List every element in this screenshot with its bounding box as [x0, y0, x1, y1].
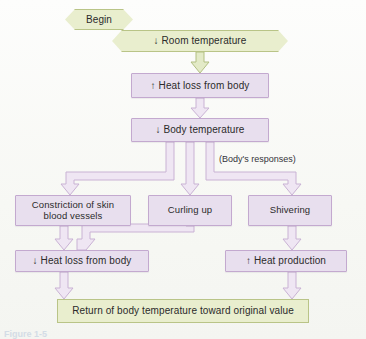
- arrow-heat-production-to-return: [283, 272, 301, 299]
- figure-caption: Figure 1-5: [4, 329, 47, 339]
- node-heat-loss-decrease: ↓ Heat loss from body: [15, 250, 149, 272]
- arrow-body-temp-to-shivering: [206, 142, 301, 195]
- node-constriction: Constriction of skin blood vessels: [15, 195, 131, 226]
- node-heat-loss-decrease-label: ↓ Heat loss from body: [33, 255, 132, 266]
- node-heat-production-label: ↑ Heat production: [246, 255, 326, 266]
- node-shivering-label: Shivering: [270, 205, 311, 216]
- node-return-value-label: Return of body temperature toward origin…: [72, 305, 294, 316]
- arrow-heat-loss-to-body-temp: [191, 98, 209, 118]
- node-return-value: Return of body temperature toward origin…: [57, 299, 309, 323]
- node-constriction-line2: blood vessels: [44, 211, 103, 222]
- label-body-responses-text: (Body's responses): [219, 154, 296, 164]
- node-shivering: Shivering: [248, 195, 332, 226]
- node-curling-up-label: Curling up: [168, 205, 212, 216]
- arrow-shivering-to-heat-production: [283, 226, 301, 250]
- arrow-curling-up-to-heat-loss-decrease: [77, 224, 194, 250]
- figure-caption-text: Figure 1-5: [4, 329, 47, 339]
- arrow-body-temp-to-constriction: [61, 142, 174, 195]
- node-heat-production: ↑ Heat production: [225, 250, 347, 272]
- node-room-temperature: ↓ Room temperature: [112, 30, 288, 52]
- arrow-room-temp-to-heat-loss: [191, 52, 209, 73]
- arrow-body-temp-to-curling-up: [181, 142, 199, 195]
- node-constriction-line1: Constriction of skin: [32, 200, 114, 211]
- node-body-temperature-label: ↓ Body temperature: [155, 124, 244, 135]
- node-heat-loss-increase: ↑ Heat loss from body: [131, 73, 269, 98]
- figure-canvas: .ar { fill:#efe6f3; stroke:#c9b2d4; stro…: [0, 0, 366, 339]
- node-heat-loss-increase-label: ↑ Heat loss from body: [151, 80, 250, 91]
- node-begin-label: Begin: [86, 14, 112, 25]
- node-room-temperature-label: ↓ Room temperature: [154, 35, 247, 46]
- node-body-temperature: ↓ Body temperature: [131, 118, 269, 142]
- node-begin: Begin: [65, 9, 133, 30]
- label-body-responses: (Body's responses): [219, 154, 296, 164]
- arrow-heat-loss-decrease-to-return: [55, 272, 73, 299]
- node-curling-up: Curling up: [148, 195, 232, 226]
- arrow-constriction-to-heat-loss-decrease: [55, 226, 73, 250]
